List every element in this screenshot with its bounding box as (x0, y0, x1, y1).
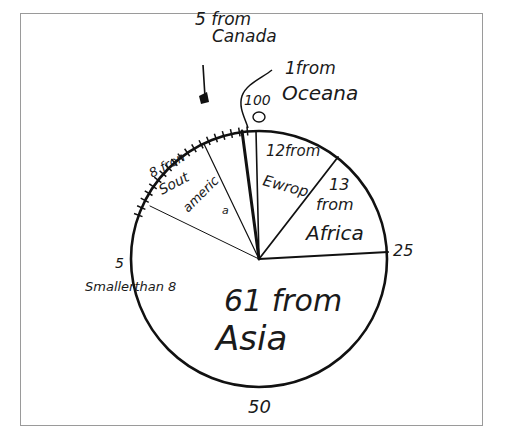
canada-arrow-head-icon (199, 92, 209, 104)
oceana-label-1: 1from (285, 58, 336, 78)
europe-name-label: Ewrop (261, 171, 311, 200)
tick-mark (230, 129, 232, 138)
marker-25: 25 (393, 241, 413, 260)
europe-value-label: 12from (266, 142, 320, 160)
oceana-label-2: Oceana (282, 81, 358, 105)
divider-south-america-asia (150, 206, 259, 259)
smaller-than-label: Smallerthan 8 (85, 279, 176, 294)
asia-value-label: 61 from (224, 283, 342, 318)
divider-africa-asia (259, 252, 388, 259)
tick-mark (239, 128, 240, 137)
canada-label-2: Canada (212, 26, 277, 46)
africa-from-label: from (316, 195, 354, 214)
marker-100: 100 (244, 92, 271, 108)
asia-name-label: Asia (214, 318, 287, 358)
africa-name-label: Africa (304, 221, 364, 245)
africa-value-label: 13 (329, 175, 349, 194)
canada-arrow (203, 65, 205, 97)
marker-5: 5 (115, 255, 124, 271)
pie-chart: 5 from Canada 1from Oceana 100 12from Ew… (0, 0, 511, 442)
zero-marker-icon (253, 112, 265, 122)
marker-50: 50 (248, 396, 271, 417)
south-america-label-4: a (222, 204, 229, 217)
